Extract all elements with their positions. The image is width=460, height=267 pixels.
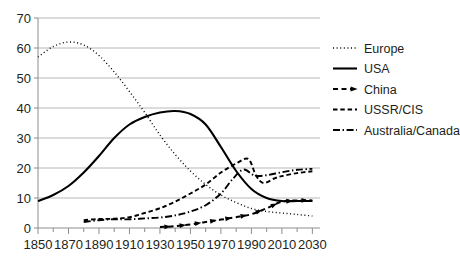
x-tick-label: 2030 — [298, 237, 327, 252]
y-tick-label: 60 — [17, 41, 31, 56]
series-marker-arrow — [195, 220, 202, 226]
x-tick-label: 1990 — [237, 237, 266, 252]
legend-swatch-arrow-icon — [351, 86, 358, 91]
line-chart: 0102030405060701850187018901910193019501… — [0, 0, 460, 267]
series-line-europe — [38, 42, 312, 216]
x-tick-label: 1910 — [115, 237, 144, 252]
x-tick-label: 1930 — [145, 237, 174, 252]
axes — [38, 18, 320, 228]
legend-item-europe[interactable]: Europe — [333, 42, 404, 56]
y-tick-label: 0 — [24, 221, 31, 236]
x-tick-label: 2010 — [267, 237, 296, 252]
y-tick-label: 30 — [17, 131, 31, 146]
y-tick-label: 10 — [17, 191, 31, 206]
legend-label: USA — [364, 62, 390, 76]
legend-label: China — [364, 83, 397, 97]
series-line-australia-canada — [84, 169, 313, 222]
series-line-usa — [38, 111, 312, 201]
legend-item-australia-canada[interactable]: Australia/Canada — [333, 124, 460, 138]
legend-label: USSR/CIS — [364, 103, 423, 117]
legend: EuropeUSAChinaUSSR/CISAustralia/Canada — [333, 42, 460, 138]
x-axis-labels: 1850187018901910193019501970199020102030 — [24, 228, 327, 252]
series-marker-arrow — [302, 198, 309, 203]
y-axis-labels: 010203040506070 — [17, 11, 38, 236]
chart-canvas: 0102030405060701850187018901910193019501… — [0, 0, 460, 267]
y-tick-label: 40 — [17, 101, 31, 116]
series-marker-arrow — [286, 198, 293, 203]
legend-label: Europe — [364, 42, 404, 56]
x-tick-label: 1970 — [206, 237, 235, 252]
legend-item-usa[interactable]: USA — [333, 62, 390, 76]
y-tick-label: 50 — [17, 71, 31, 86]
series-marker-arrow — [210, 218, 217, 224]
x-tick-label: 1890 — [85, 237, 114, 252]
x-tick-label: 1850 — [24, 237, 53, 252]
x-tick-label: 1950 — [176, 237, 205, 252]
x-tick-label: 1870 — [54, 237, 83, 252]
y-tick-label: 20 — [17, 161, 31, 176]
y-tick-label: 70 — [17, 11, 31, 26]
series-group — [38, 42, 312, 229]
legend-label: Australia/Canada — [364, 124, 460, 138]
legend-item-china[interactable]: China — [333, 83, 397, 97]
legend-item-ussr-cis[interactable]: USSR/CIS — [333, 103, 423, 117]
series-marker-arrow — [179, 223, 186, 229]
gridlines — [38, 18, 320, 198]
